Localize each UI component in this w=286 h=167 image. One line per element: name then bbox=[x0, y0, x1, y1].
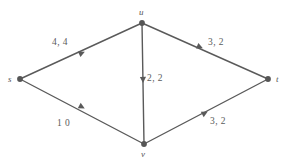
arrowhead-u-t bbox=[196, 43, 203, 49]
edge-label-u-v: 2, 2 bbox=[147, 74, 163, 84]
edge-line-u-t bbox=[142, 23, 268, 79]
edge-line-v-t bbox=[144, 79, 268, 144]
node-dot-u bbox=[139, 20, 145, 26]
edge-label-s-v: 1 0 bbox=[57, 119, 70, 129]
graph-canvas bbox=[0, 0, 286, 167]
node-label-s: s bbox=[8, 75, 12, 84]
arrowhead-u-v bbox=[140, 77, 146, 83]
arrowhead-s-v bbox=[78, 103, 85, 109]
node-dot-v bbox=[141, 141, 147, 147]
edge-line-u-v bbox=[142, 23, 144, 144]
node-dot-s bbox=[17, 76, 23, 82]
node-dot-t bbox=[265, 76, 271, 82]
edge-label-v-t: 3, 2 bbox=[210, 117, 226, 127]
edge-label-u-t: 3, 2 bbox=[208, 38, 224, 48]
edge-line-s-v bbox=[20, 79, 144, 144]
arrowhead-s-u bbox=[78, 51, 85, 57]
edge-line-s-u bbox=[20, 23, 142, 79]
node-label-v: v bbox=[141, 150, 145, 159]
edge-label-s-u: 4, 4 bbox=[52, 38, 68, 48]
node-label-t: t bbox=[276, 75, 279, 84]
node-label-u: u bbox=[139, 8, 144, 17]
flow-network-figure: suvt 4, 41 02, 23, 23, 2 bbox=[0, 0, 286, 167]
